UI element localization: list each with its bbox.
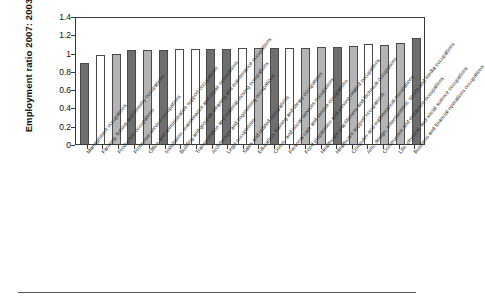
y-axis-tick-mark xyxy=(71,145,75,146)
bar xyxy=(396,43,405,144)
bar xyxy=(270,48,279,144)
x-axis-tick-mark xyxy=(149,145,150,149)
bar xyxy=(380,45,389,144)
x-axis-tick-mark xyxy=(243,145,244,149)
bar xyxy=(333,47,342,144)
bar xyxy=(175,49,184,144)
bar xyxy=(127,50,136,144)
x-axis-tick-mark xyxy=(321,145,322,149)
bar xyxy=(254,48,263,144)
x-axis-tick-mark xyxy=(212,145,213,149)
bar xyxy=(222,49,231,144)
x-axis-tick-mark xyxy=(258,145,259,149)
y-axis-tick-label: 0.8 xyxy=(45,68,71,77)
y-axis-tick-label: 1 xyxy=(45,50,71,59)
x-axis-tick-mark xyxy=(180,145,181,149)
y-axis-tick-label: 0.4 xyxy=(45,104,71,113)
y-axis-tick-label: 0.6 xyxy=(45,86,71,95)
x-axis-tick-mark xyxy=(289,145,290,149)
bar xyxy=(285,48,294,144)
bar xyxy=(301,48,310,144)
x-axis-tick-mark xyxy=(165,145,166,149)
bar xyxy=(191,49,200,144)
y-axis-tick-label: 0.2 xyxy=(45,123,71,132)
plot-area xyxy=(75,17,425,145)
x-axis-tick-mark xyxy=(383,145,384,149)
x-axis-tick-mark xyxy=(227,145,228,149)
x-axis-tick-mark xyxy=(196,145,197,149)
bar xyxy=(159,50,168,144)
y-axis-tick-label: 1.4 xyxy=(45,13,71,22)
bar xyxy=(96,55,105,144)
bar xyxy=(80,63,89,144)
bar xyxy=(364,44,373,144)
x-axis-tick-mark xyxy=(274,145,275,149)
bar xyxy=(143,50,152,144)
footer-divider xyxy=(18,292,416,293)
x-axis-tick-mark xyxy=(336,145,337,149)
x-axis-tick-mark xyxy=(305,145,306,149)
bar xyxy=(112,54,121,144)
x-axis-tick-mark xyxy=(399,145,400,149)
y-axis-title: Employment ratio 2007: 2003 xyxy=(23,0,34,146)
x-axis-tick-mark xyxy=(134,145,135,149)
x-axis-tick-mark xyxy=(87,145,88,149)
bar xyxy=(317,47,326,144)
x-axis-tick-mark xyxy=(118,145,119,149)
bar xyxy=(349,46,358,144)
x-axis-tick-mark xyxy=(367,145,368,149)
x-axis-tick-mark xyxy=(352,145,353,149)
bar xyxy=(412,38,421,144)
bar xyxy=(206,49,215,144)
y-axis-tick-label: 1.2 xyxy=(45,31,71,40)
x-axis-tick-mark xyxy=(102,145,103,149)
y-axis-tick-label: 0 xyxy=(45,141,71,150)
bar-series xyxy=(76,18,424,144)
x-axis-tick-mark xyxy=(414,145,415,149)
bar xyxy=(238,48,247,144)
